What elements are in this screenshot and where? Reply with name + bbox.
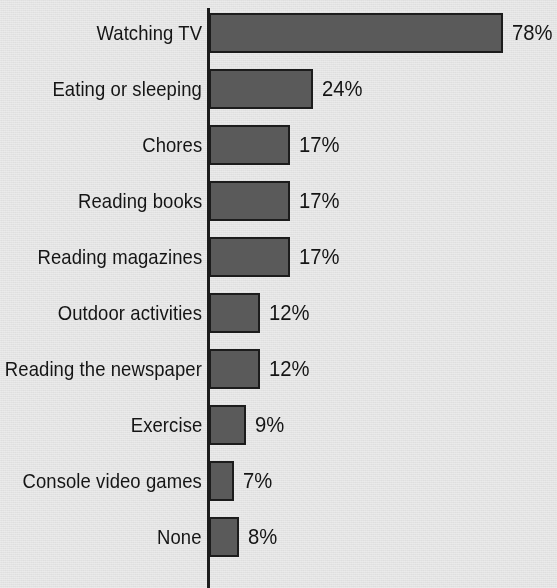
bar-row: Console video games7% <box>0 461 557 501</box>
category-label: Console video games <box>23 461 202 501</box>
category-label: Outdoor activities <box>58 293 202 333</box>
bar-value-label: 12% <box>269 349 310 389</box>
bar <box>209 69 313 109</box>
category-label: Reading magazines <box>37 237 202 277</box>
bar <box>209 237 290 277</box>
bar-value-label: 9% <box>255 405 284 445</box>
bar <box>209 181 290 221</box>
category-label: Reading books <box>78 181 202 221</box>
bar <box>209 461 234 501</box>
bar-row: Watching TV78% <box>0 13 557 53</box>
category-label: Exercise <box>130 405 202 445</box>
bar <box>209 125 290 165</box>
bar-row: None8% <box>0 517 557 557</box>
bar-value-label: 17% <box>299 237 340 277</box>
horizontal-bar-chart: Watching TV78%Eating or sleeping24%Chore… <box>0 0 557 588</box>
bar <box>209 405 246 445</box>
bar-value-label: 24% <box>322 69 363 109</box>
bar-value-label: 78% <box>512 13 553 53</box>
bar <box>209 293 260 333</box>
bar-row: Reading books17% <box>0 181 557 221</box>
bar-row: Outdoor activities12% <box>0 293 557 333</box>
bar-value-label: 17% <box>299 181 340 221</box>
bar-row: Eating or sleeping24% <box>0 69 557 109</box>
category-label: Chores <box>142 125 202 165</box>
category-label: Watching TV <box>96 13 202 53</box>
bar-row: Exercise9% <box>0 405 557 445</box>
bar-value-label: 8% <box>248 517 277 557</box>
bar-value-label: 12% <box>269 293 310 333</box>
category-label: Reading the newspaper <box>5 349 202 389</box>
bar <box>209 349 260 389</box>
bar-value-label: 17% <box>299 125 340 165</box>
category-label: None <box>157 517 202 557</box>
bar <box>209 517 239 557</box>
bar-value-label: 7% <box>243 461 272 501</box>
bar <box>209 13 503 53</box>
bar-row: Reading magazines17% <box>0 237 557 277</box>
bar-row: Chores17% <box>0 125 557 165</box>
bar-row: Reading the newspaper12% <box>0 349 557 389</box>
category-label: Eating or sleeping <box>52 69 202 109</box>
